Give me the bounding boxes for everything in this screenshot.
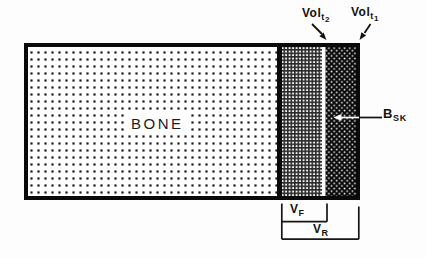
bsk-sub: SK xyxy=(393,113,407,123)
dark-stippled-strip xyxy=(326,46,358,197)
bsk-label: BSK xyxy=(383,107,407,120)
bone-label: BONE xyxy=(127,113,188,135)
vol-t1-main: Vol xyxy=(351,5,370,19)
vf-main: V xyxy=(290,202,299,216)
vr-main: V xyxy=(313,222,322,236)
fine-mesh-strip xyxy=(282,46,322,197)
vol-t2-label: Volt2 xyxy=(302,7,330,19)
vf-sub: F xyxy=(299,208,305,218)
vr-label: VR xyxy=(313,223,329,235)
vol-t1-label: Volt1 xyxy=(351,6,379,18)
bone-diagram-graphics xyxy=(0,0,426,258)
vol-t2-subsub: 2 xyxy=(325,15,330,24)
vf-label: VF xyxy=(290,203,305,215)
mesh-strip-left-border xyxy=(277,46,282,197)
vol-t2-main: Vol xyxy=(302,6,321,20)
vol-t1-subsub: 1 xyxy=(374,14,379,23)
diagram-canvas: BONE Volt2 Volt1 BSK VF VR xyxy=(0,0,426,258)
strip-gap xyxy=(322,46,326,197)
vol-t1-arrow xyxy=(360,24,371,40)
vr-sub: R xyxy=(322,228,329,238)
vol-t2-arrow xyxy=(312,24,327,40)
bsk-main: B xyxy=(383,106,393,121)
